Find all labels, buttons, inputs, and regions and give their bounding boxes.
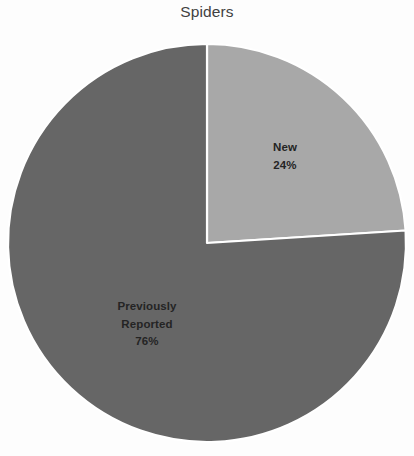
pie-graphic bbox=[0, 0, 414, 456]
label-line-1: 24% bbox=[273, 156, 297, 174]
pie-slice-group bbox=[8, 44, 406, 442]
label-line-0: Previously bbox=[117, 298, 176, 316]
pie-slice-new bbox=[207, 44, 406, 243]
pie-slice-label-previously-reported: PreviouslyReported76% bbox=[117, 298, 176, 351]
pie-slice-label-new: New24% bbox=[273, 139, 297, 174]
pie-chart: Spiders New24% PreviouslyReported76% bbox=[0, 0, 414, 456]
label-line-2: 76% bbox=[117, 333, 176, 351]
label-line-1: Reported bbox=[117, 315, 176, 333]
label-line-0: New bbox=[273, 139, 297, 157]
